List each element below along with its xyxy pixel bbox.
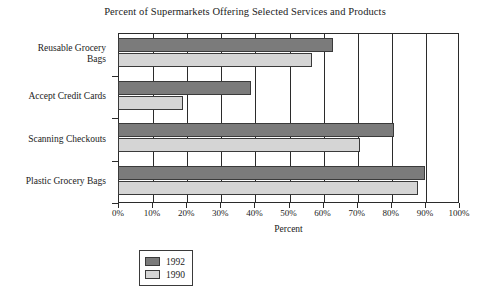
bar-1990: [118, 53, 312, 67]
y-axis-tick: [112, 203, 119, 204]
category-label-line: Plastic Grocery Bags: [0, 176, 106, 187]
chart-legend: 19921990: [139, 250, 193, 286]
bar-1990: [118, 181, 418, 195]
category-label: Reusable GroceryBags: [0, 43, 106, 65]
bar-1992: [118, 166, 425, 180]
x-axis-tick-labels: 0%10%20%30%40%50%60%70%80%90%100%: [118, 208, 459, 222]
y-axis-tick: [112, 118, 119, 119]
bar-1992: [118, 81, 251, 95]
bar-group: [118, 118, 459, 161]
y-axis-tick: [112, 161, 119, 162]
category-label: Accept Credit Cards: [0, 91, 106, 102]
bar-group: [118, 161, 459, 204]
legend-item[interactable]: 1992: [145, 255, 185, 268]
bar-group: [118, 76, 459, 119]
legend-item[interactable]: 1990: [145, 268, 185, 281]
chart-container: Percent of Supermarkets Offering Selecte…: [0, 0, 490, 303]
category-label: Scanning Checkouts: [0, 134, 106, 145]
y-axis-tick: [112, 76, 119, 77]
bar-1990: [118, 96, 183, 110]
category-label: Plastic Grocery Bags: [0, 176, 106, 187]
chart-title: Percent of Supermarkets Offering Selecte…: [0, 6, 490, 17]
category-label-line: Reusable Grocery: [0, 43, 106, 54]
legend-label: 1990: [166, 270, 185, 280]
legend-swatch-1992: [145, 257, 160, 266]
category-label-line: Scanning Checkouts: [0, 134, 106, 145]
legend-label: 1992: [166, 257, 185, 267]
bar-1992: [118, 123, 394, 137]
x-axis-tick-label: 100%: [439, 208, 479, 218]
legend-swatch-1990: [145, 270, 160, 279]
category-label-line: Bags: [0, 54, 106, 65]
bars-layer: [118, 33, 459, 203]
bar-1992: [118, 38, 333, 52]
bar-1990: [118, 138, 360, 152]
category-label-line: Accept Credit Cards: [0, 91, 106, 102]
x-axis-title: Percent: [118, 224, 459, 234]
bar-group: [118, 33, 459, 76]
category-axis-labels: Reusable GroceryBagsAccept Credit CardsS…: [0, 33, 114, 203]
